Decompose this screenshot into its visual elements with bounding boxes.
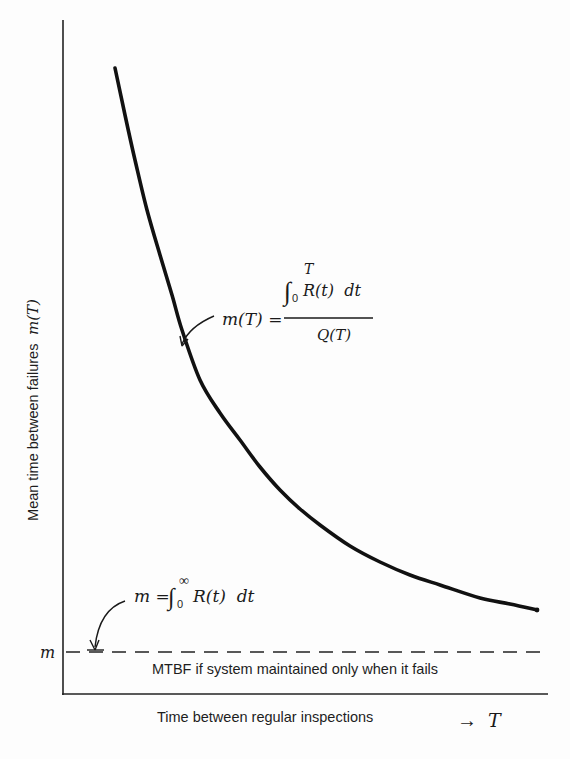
- mT-integrand: R(t) dt: [302, 281, 361, 300]
- y-tick-label-m: m: [40, 643, 55, 662]
- x-axis-label: Time between regular inspections: [157, 709, 373, 725]
- y-axis-label: Mean time between failures m(T): [24, 299, 42, 521]
- m-lower-limit: 0: [177, 598, 183, 610]
- m-integral-sign: ∫: [166, 584, 176, 612]
- mT-upper-limit: T: [304, 261, 315, 277]
- m-integrand: R(t) dt: [192, 586, 255, 606]
- m-formula-lhs: m =: [134, 586, 170, 606]
- mT-denominator: Q(T): [317, 326, 351, 344]
- curve-end-dot: [535, 608, 540, 613]
- chart-figure: Mean time between failures m(T) m Time b…: [0, 0, 570, 759]
- y-axis-label-symbol: m(T): [24, 299, 42, 335]
- svg-text:Mean time between failures: Mean time between failures m(T): [24, 299, 42, 521]
- m-formula: m = ∫ 0 ∞ R(t) dt: [134, 573, 255, 612]
- mtbf-note: MTBF if system maintained only when it f…: [152, 661, 438, 677]
- m-upper-limit: ∞: [179, 573, 189, 588]
- y-axis-label-text: Mean time between failures: [25, 344, 41, 521]
- mT-lower-limit: 0: [292, 292, 298, 304]
- mT-formula-lhs: m(T) =: [222, 309, 282, 329]
- mT-formula: m(T) = ∫ 0 T R(t) dt Q(T): [222, 261, 373, 344]
- x-axis-arrow-icon: →: [457, 709, 477, 731]
- x-axis-symbol: T: [488, 709, 502, 731]
- m-pointer-arrow-icon: [87, 601, 125, 650]
- mT-pointer-arrow-icon: [180, 316, 214, 346]
